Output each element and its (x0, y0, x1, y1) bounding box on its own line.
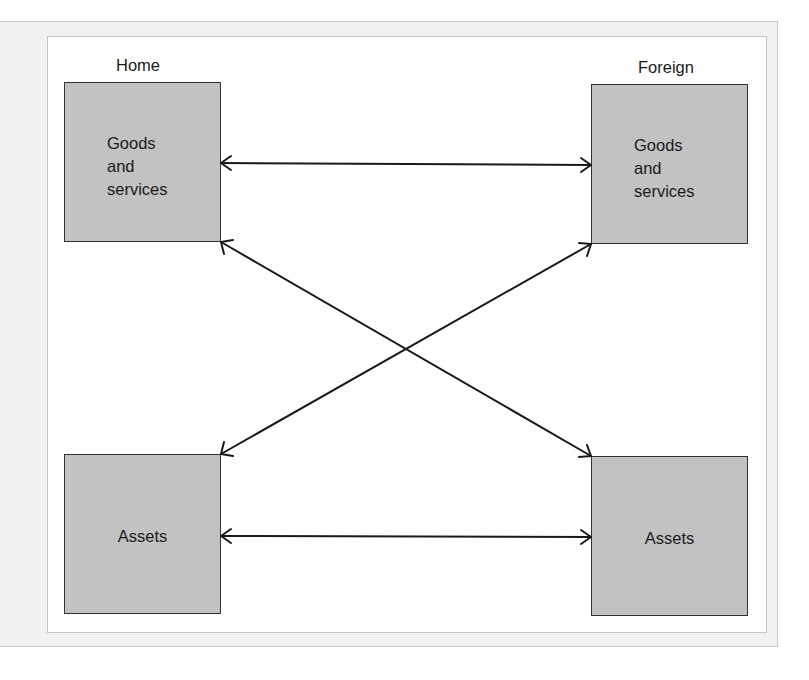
node-label: Assets (592, 527, 747, 550)
region-label-foreign: Foreign (638, 58, 694, 77)
node-foreign-assets: Assets (591, 456, 748, 616)
region-label-home: Home (116, 56, 160, 75)
node-home-goods-services: Goods and services (64, 82, 221, 242)
node-label: Assets (65, 525, 220, 548)
node-label: Goods and services (634, 134, 695, 203)
node-label: Goods and services (107, 132, 168, 201)
node-home-assets: Assets (64, 454, 221, 614)
node-foreign-goods-services: Goods and services (591, 84, 748, 244)
